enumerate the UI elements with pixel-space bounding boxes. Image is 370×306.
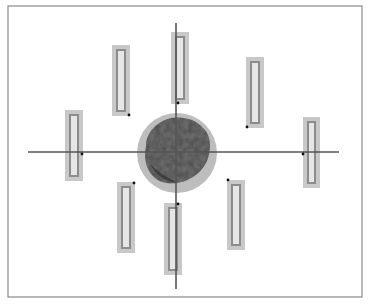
electrode-bar-bottom-right [227,180,245,250]
electrode-bar-top-left [112,45,130,116]
marker-dot-bottom-left [133,182,136,185]
marker-dot-bottom-center [177,203,180,206]
marker-dot-right [302,153,305,156]
marker-dot-left [81,153,84,156]
bar-inner [122,187,130,248]
bar-inner [232,185,240,245]
marker-dot-top-center [177,102,180,105]
marker-dot-top-right [246,126,249,129]
central-body [137,113,217,193]
electrode-bar-bottom-left [117,182,135,253]
marker-dot-top-left [128,114,131,117]
electrode-bar-top-center [171,32,189,104]
bar-inner [117,50,125,111]
bar-inner [176,37,184,99]
marker-dot-bottom-right [227,179,230,182]
electrode-bar-bottom-center [164,203,182,275]
electrode-bar-left [65,110,83,181]
electrode-bar-top-right [246,57,264,128]
bar-inner [70,115,78,176]
bar-inner [251,62,259,123]
diagram-canvas [0,0,370,306]
